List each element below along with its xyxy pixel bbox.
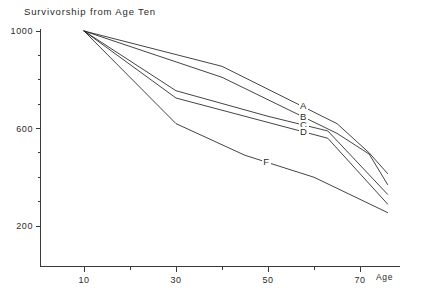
x-tick-label: 50	[248, 275, 288, 285]
x-axis-label: Age	[376, 272, 393, 282]
x-tick-label: 10	[64, 275, 104, 285]
axis-group	[41, 29, 401, 267]
curve-label-F: F	[262, 157, 271, 167]
series-group	[84, 31, 388, 213]
curve-label-D: D	[299, 127, 309, 137]
series-line-D	[84, 31, 388, 204]
x-tick-label: 70	[340, 275, 380, 285]
y-tick-label: 200	[0, 221, 33, 231]
y-tick-label: 1000	[0, 26, 33, 36]
series-line-F	[84, 31, 388, 213]
y-tick-label: 600	[0, 124, 33, 134]
chart-figure: Survivorship from Age Ten 2006001000 103…	[0, 0, 421, 295]
y-tick-group	[36, 31, 41, 226]
curve-label-A: A	[299, 101, 309, 111]
series-line-C	[84, 31, 388, 194]
x-tick-label: 30	[156, 275, 196, 285]
plot-canvas	[0, 0, 421, 295]
series-line-A	[84, 31, 388, 174]
x-tick-group	[84, 267, 360, 272]
